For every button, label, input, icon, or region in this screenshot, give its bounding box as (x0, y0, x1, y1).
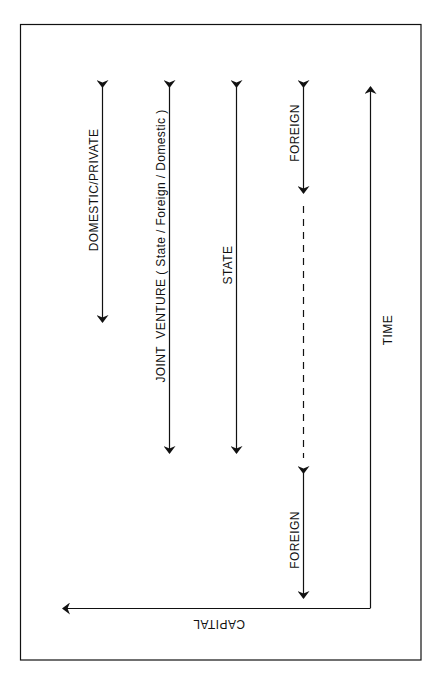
band-label-foreign-late: FOREIGN (288, 511, 302, 568)
band-label-state: STATE (221, 246, 235, 285)
band-foreign-late: FOREIGN (288, 473, 304, 598)
band-domestic-private: DOMESTIC/PRIVATE (87, 87, 103, 322)
band-joint-venture: JOINT VENTURE ( State / Foreign / Domest… (154, 87, 170, 453)
time-axis: TIME (371, 87, 396, 608)
time-axis-label: TIME (381, 315, 395, 345)
band-label-joint-venture: JOINT VENTURE ( State / Foreign / Domest… (154, 109, 168, 382)
band-label-domestic-private: DOMESTIC/PRIVATE (87, 129, 101, 252)
capital-time-diagram: DOMESTIC/PRIVATE JOINT VENTURE ( State /… (0, 0, 434, 678)
band-foreign-early: FOREIGN (288, 87, 304, 193)
band-state: STATE (221, 87, 237, 453)
capital-axis-label: CAPITAL (193, 617, 245, 631)
band-label-foreign-early: FOREIGN (288, 104, 302, 161)
diagram-frame (21, 25, 422, 661)
capital-axis: CAPITAL (63, 609, 371, 632)
